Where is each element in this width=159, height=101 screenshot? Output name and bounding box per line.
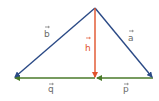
label-h: h <box>85 37 91 53</box>
svg-text:q: q <box>48 84 54 94</box>
label-b: b <box>44 26 50 39</box>
vector-b <box>15 8 95 77</box>
label-a: a <box>128 30 134 43</box>
svg-text:a: a <box>128 33 134 43</box>
label-q: q <box>48 83 54 94</box>
label-p: p <box>123 83 129 94</box>
svg-text:p: p <box>123 84 129 94</box>
svg-text:b: b <box>44 29 50 39</box>
vector-a <box>95 8 152 77</box>
vector-triangle-diagram: b a h q p <box>0 0 159 101</box>
svg-text:h: h <box>85 43 91 53</box>
